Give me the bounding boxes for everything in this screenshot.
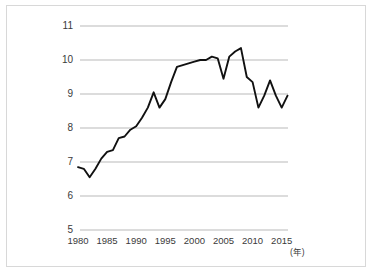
y-axis-tick-label: 6 [51, 191, 73, 201]
data-line [78, 48, 288, 177]
data-line-group [78, 48, 288, 177]
y-axis-tick-label: 11 [51, 21, 73, 31]
x-axis-unit-label: (年) [290, 247, 305, 257]
y-axis-tick-label: 5 [51, 225, 73, 235]
y-axis-tick-label: 9 [51, 89, 73, 99]
gridlines [80, 26, 288, 230]
y-axis-tick-label: 7 [51, 157, 73, 167]
y-axis-tick-label: 8 [51, 123, 73, 133]
x-axis-tick-label: 2015 [265, 236, 299, 246]
y-axis-tick-label: 10 [51, 55, 73, 65]
chart-figure: 111098765 198019851990199520002005201020… [0, 0, 373, 274]
